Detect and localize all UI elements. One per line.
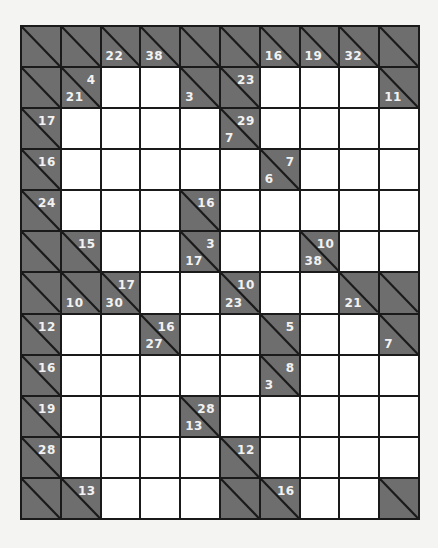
- entry-cell[interactable]: [221, 356, 259, 395]
- entry-cell[interactable]: [102, 232, 140, 271]
- clue-cell: [221, 27, 259, 66]
- entry-cell[interactable]: [221, 150, 259, 189]
- entry-cell[interactable]: [340, 438, 378, 477]
- down-clue-sum: 38: [305, 255, 323, 267]
- entry-cell[interactable]: [62, 191, 100, 230]
- clue-cell: 16: [261, 479, 299, 518]
- entry-cell[interactable]: [102, 356, 140, 395]
- entry-cell[interactable]: [141, 438, 179, 477]
- clue-cell: 1023: [221, 273, 259, 312]
- diagonal-divider-icon: [380, 27, 418, 66]
- entry-cell[interactable]: [261, 68, 299, 107]
- entry-cell[interactable]: [380, 150, 418, 189]
- entry-cell[interactable]: [340, 109, 378, 148]
- clue-cell: 13: [62, 479, 100, 518]
- entry-cell[interactable]: [340, 397, 378, 436]
- down-clue-sum: 38: [145, 50, 163, 62]
- entry-cell[interactable]: [141, 397, 179, 436]
- entry-cell[interactable]: [102, 438, 140, 477]
- across-clue-sum: 13: [78, 485, 96, 497]
- entry-cell[interactable]: [141, 191, 179, 230]
- entry-cell[interactable]: [340, 315, 378, 354]
- entry-cell[interactable]: [181, 109, 219, 148]
- entry-cell[interactable]: [261, 191, 299, 230]
- down-clue-sum: 27: [145, 338, 163, 350]
- entry-cell[interactable]: [340, 479, 378, 518]
- entry-cell[interactable]: [141, 150, 179, 189]
- entry-cell[interactable]: [380, 438, 418, 477]
- diagonal-divider-icon: [380, 479, 418, 518]
- clue-cell: 5: [261, 315, 299, 354]
- entry-cell[interactable]: [340, 191, 378, 230]
- entry-cell[interactable]: [62, 150, 100, 189]
- entry-cell[interactable]: [221, 315, 259, 354]
- entry-cell[interactable]: [301, 397, 339, 436]
- entry-cell[interactable]: [141, 232, 179, 271]
- entry-cell[interactable]: [62, 109, 100, 148]
- entry-cell[interactable]: [181, 315, 219, 354]
- entry-cell[interactable]: [301, 315, 339, 354]
- clue-cell: [380, 273, 418, 312]
- across-clue-sum: 4: [87, 74, 96, 86]
- entry-cell[interactable]: [102, 315, 140, 354]
- entry-cell[interactable]: [141, 356, 179, 395]
- entry-cell[interactable]: [340, 68, 378, 107]
- clue-cell: 421: [62, 68, 100, 107]
- entry-cell[interactable]: [102, 150, 140, 189]
- entry-cell[interactable]: [102, 479, 140, 518]
- entry-cell[interactable]: [221, 397, 259, 436]
- down-clue-sum: 3: [265, 379, 274, 391]
- entry-cell[interactable]: [141, 109, 179, 148]
- entry-cell[interactable]: [102, 191, 140, 230]
- entry-cell[interactable]: [181, 438, 219, 477]
- entry-cell[interactable]: [102, 68, 140, 107]
- entry-cell[interactable]: [62, 438, 100, 477]
- clue-cell: 19: [22, 397, 60, 436]
- entry-cell[interactable]: [301, 273, 339, 312]
- entry-cell[interactable]: [261, 397, 299, 436]
- entry-cell[interactable]: [221, 191, 259, 230]
- entry-cell[interactable]: [340, 356, 378, 395]
- entry-cell[interactable]: [62, 315, 100, 354]
- entry-cell[interactable]: [301, 150, 339, 189]
- clue-cell: 23: [221, 68, 259, 107]
- entry-cell[interactable]: [141, 68, 179, 107]
- entry-cell[interactable]: [102, 397, 140, 436]
- entry-cell[interactable]: [62, 397, 100, 436]
- down-clue-sum: 16: [265, 50, 283, 62]
- entry-cell[interactable]: [340, 232, 378, 271]
- entry-cell[interactable]: [261, 273, 299, 312]
- entry-cell[interactable]: [301, 438, 339, 477]
- entry-cell[interactable]: [261, 109, 299, 148]
- entry-cell[interactable]: [102, 109, 140, 148]
- entry-cell[interactable]: [380, 397, 418, 436]
- entry-cell[interactable]: [380, 191, 418, 230]
- clue-cell: 16: [181, 191, 219, 230]
- across-clue-sum: 28: [197, 403, 215, 415]
- clue-cell: 83: [261, 356, 299, 395]
- entry-cell[interactable]: [261, 232, 299, 271]
- across-clue-sum: 17: [118, 279, 136, 291]
- entry-cell[interactable]: [380, 109, 418, 148]
- entry-cell[interactable]: [301, 356, 339, 395]
- entry-cell[interactable]: [221, 232, 259, 271]
- entry-cell[interactable]: [141, 273, 179, 312]
- entry-cell[interactable]: [62, 356, 100, 395]
- entry-cell[interactable]: [340, 150, 378, 189]
- entry-cell[interactable]: [301, 109, 339, 148]
- across-clue-sum: 5: [286, 321, 295, 333]
- across-clue-sum: 7: [286, 156, 295, 168]
- entry-cell[interactable]: [141, 479, 179, 518]
- entry-cell[interactable]: [261, 438, 299, 477]
- entry-cell[interactable]: [181, 356, 219, 395]
- entry-cell[interactable]: [301, 68, 339, 107]
- across-clue-sum: 12: [38, 321, 56, 333]
- entry-cell[interactable]: [181, 273, 219, 312]
- entry-cell[interactable]: [181, 150, 219, 189]
- entry-cell[interactable]: [181, 479, 219, 518]
- entry-cell[interactable]: [380, 356, 418, 395]
- entry-cell[interactable]: [301, 191, 339, 230]
- entry-cell[interactable]: [301, 479, 339, 518]
- down-clue-sum: 30: [106, 297, 124, 309]
- entry-cell[interactable]: [380, 232, 418, 271]
